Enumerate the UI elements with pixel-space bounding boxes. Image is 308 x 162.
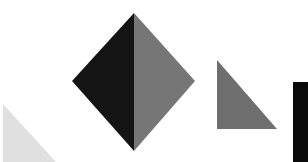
shapes-canvas <box>0 0 308 162</box>
black-rectangle <box>293 82 308 162</box>
